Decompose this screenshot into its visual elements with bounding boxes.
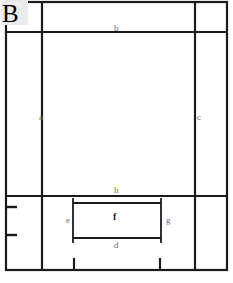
panel-letter-badge: B — [1, 1, 28, 25]
panel-letter-text: B — [2, 1, 19, 26]
figure-panel-b: B a b c d e f g h — [0, 0, 233, 283]
outer-frame-group — [6, 2, 227, 270]
dimension-label-b: b — [114, 24, 119, 33]
dimension-label-f: f — [113, 212, 116, 221]
dimension-label-d: d — [114, 241, 119, 250]
dimension-label-e: e — [66, 216, 70, 225]
dimension-label-h: h — [114, 186, 119, 195]
outer-frame-rect — [6, 2, 227, 270]
dimension-label-g: g — [166, 216, 171, 225]
inner-rectangle-group — [73, 198, 161, 243]
dimension-label-a: a — [39, 113, 43, 122]
dimension-label-c: c — [197, 113, 201, 122]
